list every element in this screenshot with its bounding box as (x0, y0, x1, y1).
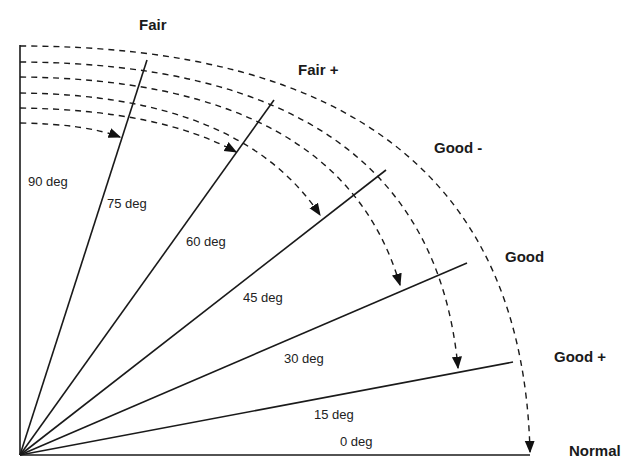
label-45: 45 deg (243, 290, 283, 305)
category-normal: Normal (569, 442, 621, 459)
arc-fair-plus (20, 108, 236, 152)
label-60: 60 deg (186, 234, 226, 249)
ray-75 (20, 60, 147, 455)
arc-good-minus (20, 93, 320, 215)
label-75: 75 deg (107, 196, 147, 211)
label-0: 0 deg (340, 434, 373, 449)
category-fair: Fair (139, 16, 167, 33)
rotation-diagram: 90 deg 75 deg 60 deg 45 deg 30 deg 15 de… (0, 0, 639, 472)
label-15: 15 deg (314, 407, 354, 422)
label-90: 90 deg (28, 174, 68, 189)
arc-fair (20, 123, 120, 137)
arc-good-plus (20, 62, 458, 368)
label-30: 30 deg (284, 351, 324, 366)
ray-60 (20, 100, 274, 455)
arc-normal (20, 46, 530, 452)
category-fair-plus: Fair + (298, 61, 339, 78)
arc-good (20, 77, 400, 285)
category-good: Good (505, 248, 544, 265)
category-good-minus: Good - (434, 139, 482, 156)
category-good-plus: Good + (554, 348, 606, 365)
ray-15 (20, 362, 513, 455)
